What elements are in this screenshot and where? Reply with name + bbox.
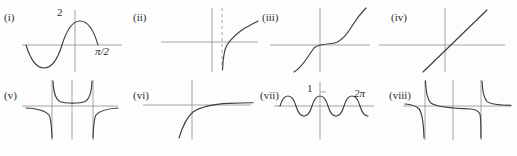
x-value-label-pi-over-2: π/2 — [95, 45, 109, 57]
secant-branch-center — [53, 81, 92, 103]
panel-v-plot — [0, 78, 129, 156]
amplitude-label-1: 1 — [307, 82, 313, 94]
panel-iii: (iii) — [258, 0, 387, 78]
panel-vi-plot — [129, 78, 258, 156]
panel-vii: (vii) 1 2π — [258, 78, 387, 156]
panel-ii-plot — [129, 0, 258, 78]
secant-branch-right — [93, 108, 118, 138]
panel-v: (v) — [0, 78, 129, 156]
panel-iv: (iv) — [387, 0, 516, 78]
reciprocal-curve — [179, 103, 253, 138]
panel-i: (i) 2 π/2 — [0, 0, 129, 78]
panel-vii-plot — [258, 78, 387, 156]
panel-viii-plot — [387, 78, 516, 156]
period-label-2pi: 2π — [354, 87, 365, 99]
panel-i-plot — [0, 0, 129, 78]
sine-curve — [26, 21, 98, 68]
panel-viii: (viii) — [387, 78, 516, 156]
log-curve — [223, 21, 259, 70]
panel-vi: (vi) — [129, 78, 258, 156]
cotangent-branch-left — [405, 104, 424, 138]
cotangent-branch-right — [482, 81, 511, 105]
panel-iii-plot — [258, 0, 387, 78]
secant-branch-left — [26, 108, 52, 138]
figure-panel-grid: (i) 2 π/2 (ii) (iii) (iv) — [0, 0, 517, 156]
straight-line — [423, 10, 487, 72]
cubic-curve — [294, 8, 366, 72]
panel-ii: (ii) — [129, 0, 258, 78]
y-value-label-2: 2 — [57, 6, 63, 18]
panel-iv-plot — [387, 0, 516, 78]
